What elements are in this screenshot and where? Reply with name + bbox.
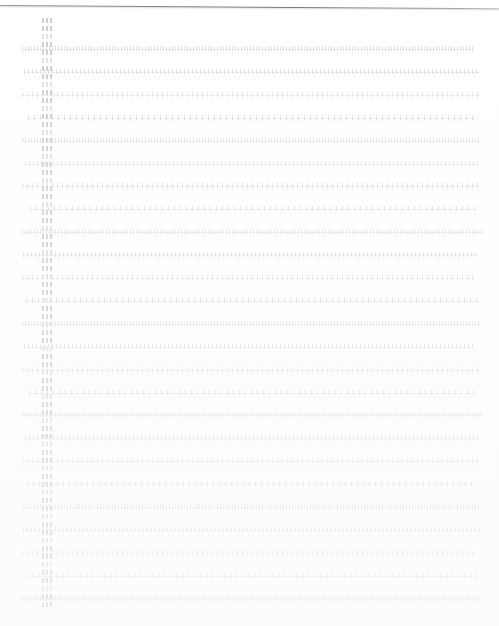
text-line-glyph-stipple [22,504,481,509]
text-line-descender-smudge [24,350,475,352]
text-line-descender-smudge [22,602,480,604]
text-line-glyph-stipple [25,161,479,166]
text-line-glyph-stipple [26,298,482,303]
text-line-glyph-stipple [22,321,481,326]
text-line-descender-smudge [24,75,480,77]
text-line-descender-smudge [22,418,482,420]
text-line-descender-smudge [26,579,478,581]
text-line [22,183,479,192]
text-line-descender-smudge [22,464,478,466]
text-line-glyph-stipple [22,412,482,417]
text-line-glyph-stipple [22,596,480,601]
text-line [22,550,476,559]
text-line-descender-smudge [22,235,482,237]
text-line-descender-smudge [22,510,481,512]
text-line [22,46,474,55]
text-line [22,138,481,147]
text-line-descender-smudge [22,189,479,191]
text-line [26,298,482,307]
text-line-glyph-stipple [23,527,480,532]
text-line-glyph-stipple [26,573,478,578]
text-line [22,92,480,101]
text-line-glyph-stipple [22,92,480,97]
text-line [22,367,480,376]
text-line-glyph-stipple [25,435,478,440]
faded-text-block [0,0,499,626]
text-line-descender-smudge [22,144,481,146]
text-line-descender-smudge [23,533,480,535]
text-line [28,115,478,124]
text-line [24,344,475,353]
text-line-glyph-stipple [22,550,476,555]
text-line [22,504,481,513]
text-line-descender-smudge [22,98,480,100]
text-line [23,527,480,536]
text-line [30,206,478,215]
text-line [25,435,478,444]
text-line-glyph-stipple [24,69,480,74]
text-line-glyph-stipple [22,367,480,372]
text-line [22,275,474,284]
text-line-glyph-stipple [22,138,481,143]
text-line-descender-smudge [27,487,476,489]
text-line [23,252,478,261]
text-line-glyph-stipple [30,206,478,211]
text-line-glyph-stipple [27,481,476,486]
text-line-glyph-stipple [28,115,478,120]
text-line-descender-smudge [22,556,476,558]
text-line-glyph-stipple [24,344,475,349]
text-line-descender-smudge [30,212,478,214]
text-line-descender-smudge [25,441,478,443]
text-line-glyph-stipple [22,275,474,280]
text-line-glyph-stipple [22,183,479,188]
text-line-glyph-stipple [23,252,478,257]
scanned-page [0,0,499,626]
text-line [22,412,482,421]
text-line [24,69,480,78]
text-line-descender-smudge [28,121,478,123]
text-line-descender-smudge [29,396,476,398]
text-line [22,321,481,330]
text-line [22,596,480,605]
text-line-descender-smudge [22,281,474,283]
text-line [25,161,479,170]
text-line-descender-smudge [23,258,478,260]
text-line-glyph-stipple [29,390,476,395]
text-line-descender-smudge [22,52,474,54]
text-line [22,229,482,238]
text-line [26,573,478,582]
text-line [29,390,476,399]
text-line-descender-smudge [22,327,481,329]
text-line [27,481,476,490]
text-line-descender-smudge [25,167,479,169]
text-line-glyph-stipple [22,46,474,51]
text-line-descender-smudge [26,304,482,306]
text-line-glyph-stipple [22,458,478,463]
text-line-descender-smudge [22,373,480,375]
text-line [22,458,478,467]
text-line-glyph-stipple [22,229,482,234]
